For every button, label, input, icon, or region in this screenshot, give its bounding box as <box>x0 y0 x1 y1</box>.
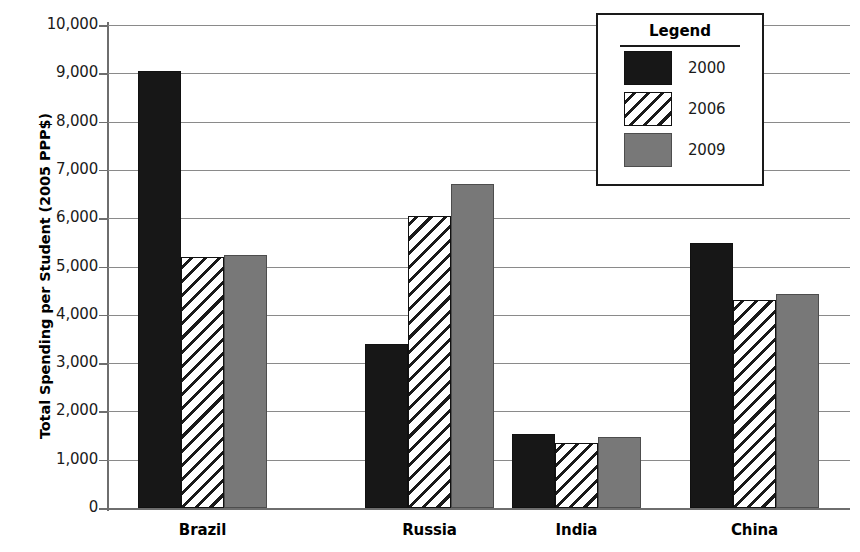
y-axis-tick-mark <box>99 411 108 413</box>
y-axis-tick-mark <box>99 122 108 124</box>
legend-item-label: 2006 <box>688 100 725 118</box>
x-axis-label-india: India <box>502 521 651 539</box>
y-axis-tick-label: 10,000 <box>14 15 98 33</box>
y-axis-tick-label: 7,000 <box>14 160 98 178</box>
x-axis-label-china: China <box>680 521 829 539</box>
solid-black-swatch <box>624 51 672 85</box>
legend-item-2006[interactable]: 2006 <box>624 88 762 129</box>
bar-china-2009 <box>776 294 819 508</box>
bar-brazil-2006 <box>181 257 224 508</box>
bar-india-2006 <box>555 443 598 508</box>
x-axis-label-brazil: Brazil <box>128 521 277 539</box>
y-axis-tick-mark <box>99 267 108 269</box>
solid-gray-swatch <box>624 133 672 167</box>
bar-china-2000 <box>690 243 733 508</box>
y-axis-tick-mark <box>99 315 108 317</box>
y-axis-tick-mark <box>99 218 108 220</box>
y-axis-tick-label: 8,000 <box>14 112 98 130</box>
bar-russia-2000 <box>365 344 408 508</box>
y-axis-tick-label: 5,000 <box>14 257 98 275</box>
y-axis-tick-label: 4,000 <box>14 305 98 323</box>
bar-brazil-2009 <box>224 255 267 508</box>
bar-brazil-2000 <box>138 71 181 508</box>
legend-item-2000[interactable]: 2000 <box>624 47 762 88</box>
legend-title: Legend <box>598 22 762 40</box>
y-axis-tick-label: 6,000 <box>14 208 98 226</box>
y-axis-tick-label: 1,000 <box>14 450 98 468</box>
diagonal-hatch-swatch <box>624 92 672 126</box>
y-axis-tick-mark <box>99 170 108 172</box>
y-axis-tick-mark <box>99 25 108 27</box>
x-axis-label-russia: Russia <box>355 521 504 539</box>
y-axis-tick-mark <box>99 73 108 75</box>
legend-item-label: 2000 <box>688 59 725 77</box>
y-axis-tick-labels: 10,0009,0008,0007,0006,0005,0004,0003,00… <box>8 0 98 552</box>
legend-entries: 200020062009 <box>598 47 762 170</box>
bar-india-2000 <box>512 434 555 508</box>
x-axis-baseline <box>107 508 850 510</box>
legend: Legend 200020062009 <box>596 13 764 186</box>
y-axis-tick-mark <box>99 460 108 462</box>
y-axis-tick-label: 3,000 <box>14 353 98 371</box>
bar-china-2006 <box>733 300 776 508</box>
legend-item-2009[interactable]: 2009 <box>624 129 762 170</box>
y-axis-tick-label: 9,000 <box>14 63 98 81</box>
y-axis-tick-mark <box>99 363 108 365</box>
legend-item-label: 2009 <box>688 141 725 159</box>
y-axis-tick-label: 0 <box>14 498 98 516</box>
bar-india-2009 <box>598 437 641 508</box>
bar-russia-2006 <box>408 216 451 508</box>
bar-russia-2009 <box>451 184 494 508</box>
bar-chart: Total Spending per Student (2005 PPP$) 1… <box>0 0 860 552</box>
y-axis-tick-mark <box>99 508 108 510</box>
y-axis-tick-label: 2,000 <box>14 401 98 419</box>
